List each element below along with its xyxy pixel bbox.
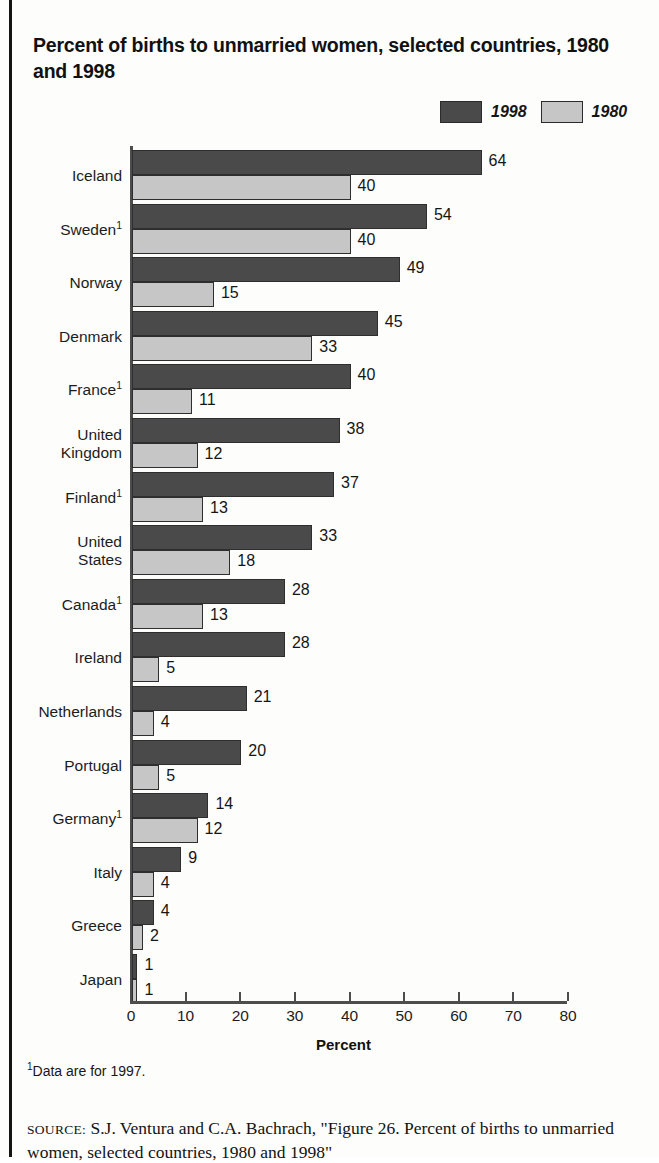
bar-italy-1998 [132,847,181,872]
bar-row: 20 [132,740,659,765]
bar-row: 37 [132,472,659,497]
bar-value-label: 38 [347,420,365,438]
bar-germany-1980 [132,818,198,843]
x-axis-tick-label: 70 [505,1007,522,1025]
bar-norway-1980 [132,282,214,307]
bar-row: 14 [132,793,659,818]
bar-value-label: 28 [292,634,310,652]
bar-row: 11 [132,389,659,414]
category-label-germany: Germany1 [0,810,122,828]
bar-iceland-1980 [132,175,351,200]
category-label-denmark: Denmark [0,328,122,346]
bar-portugal-1980 [132,765,159,790]
bar-united-kingdom-1998 [132,418,340,443]
bar-value-label: 18 [237,552,255,570]
bar-row: 12 [132,818,659,843]
x-axis-tick [185,992,187,1001]
bar-row: 4 [132,900,659,925]
bar-germany-1998 [132,793,208,818]
x-axis-tick-label: 10 [177,1007,194,1025]
category-label-italy: Italy [0,864,122,882]
x-axis-line [130,1001,567,1004]
x-axis-tick [349,992,351,1001]
bar-value-label: 40 [358,366,376,384]
bar-row: 40 [132,175,659,200]
bar-row: 2 [132,925,659,950]
bar-row: 4 [132,872,659,897]
bar-iceland-1998 [132,150,482,175]
bar-row: 40 [132,364,659,389]
bar-value-label: 12 [205,820,223,838]
bar-value-label: 64 [489,152,507,170]
x-axis-tick [294,992,296,1001]
x-axis-tick-label: 60 [450,1007,467,1025]
bar-row: 33 [132,525,659,550]
chart-plot-area: Iceland6440Sweden15440Norway4915Denmark4… [0,146,659,1006]
bar-row: 38 [132,418,659,443]
bar-group: Norway4915 [0,257,659,311]
source-note: SOURCE: S.J. Ventura and C.A. Bachrach, … [27,1117,647,1163]
bar-row: 64 [132,150,659,175]
bar-value-label: 28 [292,581,310,599]
bar-group: Italy94 [0,847,659,901]
bar-row: 18 [132,550,659,575]
bar-france-1980 [132,389,192,414]
x-axis-tick [458,992,460,1001]
bar-value-label: 21 [254,688,272,706]
bar-group: UnitedKingdom3812 [0,418,659,472]
footnote-text: Data are for 1997. [33,1063,146,1079]
category-label-greece: Greece [0,917,122,935]
x-axis-title: Percent [0,1036,659,1053]
bar-value-label: 40 [358,177,376,195]
x-axis-tick [567,992,569,1001]
bar-value-label: 13 [210,606,228,624]
category-label-france: France1 [0,381,122,399]
x-axis-tick-label: 20 [232,1007,249,1025]
bar-netherlands-1980 [132,711,154,736]
x-axis-tick [403,992,405,1001]
legend-swatch-1998 [440,101,482,123]
category-label-netherlands: Netherlands [0,703,122,721]
bar-united-kingdom-1980 [132,443,198,468]
bar-netherlands-1998 [132,686,247,711]
bar-value-label: 9 [188,849,197,867]
bar-group: Denmark4533 [0,311,659,365]
x-axis-tick [130,992,132,1001]
bar-canada-1998 [132,579,285,604]
bar-portugal-1998 [132,740,241,765]
source-text: S.J. Ventura and C.A. Bachrach, "Figure … [27,1118,614,1162]
bar-row: 21 [132,686,659,711]
x-axis-tick [512,992,514,1001]
x-axis-tick [239,992,241,1001]
legend-item-1998: 1998 [440,101,527,123]
bar-group: Canada12813 [0,579,659,633]
bar-finland-1998 [132,472,334,497]
bar-value-label: 20 [248,742,266,760]
bar-row: 40 [132,229,659,254]
legend-label-1980: 1980 [592,103,628,121]
bar-group: Japan11 [0,954,659,1008]
bar-row: 28 [132,579,659,604]
bar-france-1998 [132,364,351,389]
bar-finland-1980 [132,497,203,522]
bar-group: Germany11412 [0,793,659,847]
bar-value-label: 54 [434,206,452,224]
bar-row: 9 [132,847,659,872]
bar-group: Iceland6440 [0,150,659,204]
legend-item-1980: 1980 [541,101,628,123]
bar-value-label: 5 [166,659,175,677]
bar-value-label: 12 [205,445,223,463]
bar-value-label: 15 [221,284,239,302]
bar-value-label: 2 [150,927,159,945]
bar-group: Greece42 [0,900,659,954]
category-label-united-kingdom: UnitedKingdom [0,426,122,462]
bar-greece-1980 [132,925,143,950]
category-label-sweden: Sweden1 [0,221,122,239]
bar-group: France14011 [0,364,659,418]
bar-japan-1998 [132,954,137,979]
bar-value-label: 33 [319,527,337,545]
bar-united-states-1980 [132,550,230,575]
bar-row: 28 [132,632,659,657]
bar-value-label: 13 [210,499,228,517]
bar-value-label: 11 [199,391,216,409]
